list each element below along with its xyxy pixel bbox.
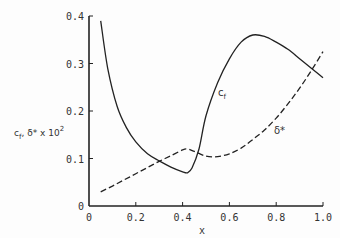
- delta-star-curve: [101, 52, 323, 192]
- cf-curve: [101, 21, 323, 173]
- x-tick-label: 0.4: [174, 212, 192, 223]
- labels: 00.20.40.60.81.000.10.20.30.4xcf, δ* x 1…: [14, 11, 332, 236]
- axes: [89, 16, 323, 206]
- x-tick-label: 0.8: [267, 212, 285, 223]
- y-tick-label: 0.4: [66, 11, 84, 22]
- cf-curve-label: cf: [218, 87, 227, 101]
- delta-star-curve-label: δ*: [274, 125, 285, 136]
- curves: [101, 21, 323, 192]
- y-tick-label: 0.1: [66, 154, 84, 165]
- x-tick-label: 0.6: [220, 212, 238, 223]
- x-tick-label: 1.0: [314, 212, 332, 223]
- chart: 00.20.40.60.81.000.10.20.30.4xcf, δ* x 1…: [0, 0, 340, 238]
- y-axis-label: cf, δ* x 102: [14, 125, 64, 141]
- y-tick-label: 0.3: [66, 59, 84, 70]
- y-tick-label: 0: [78, 201, 84, 212]
- x-axis-label: x: [199, 225, 205, 236]
- y-tick-label: 0.2: [66, 106, 84, 117]
- x-tick-label: 0.2: [127, 212, 145, 223]
- x-tick-label: 0: [86, 212, 92, 223]
